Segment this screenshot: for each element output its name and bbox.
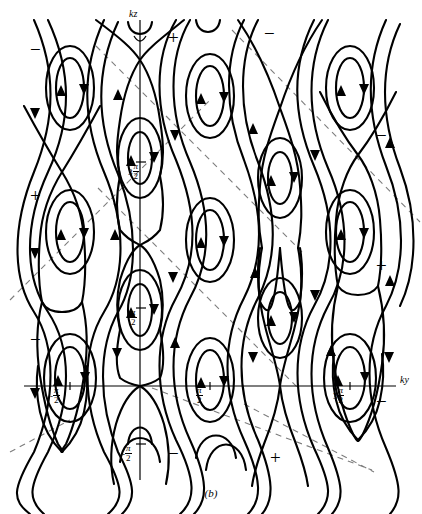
open-streamline bbox=[88, 20, 121, 514]
flow-arrow bbox=[168, 272, 178, 283]
tick-fraction: π 2 bbox=[338, 386, 345, 406]
open-streamline bbox=[160, 20, 193, 514]
flow-arrow bbox=[248, 352, 258, 363]
tick-fraction: π 2 bbox=[53, 386, 60, 406]
y-tick-label-3pi-2: 3 π 2 bbox=[128, 162, 139, 182]
flow-arrow bbox=[112, 348, 122, 359]
fraction-denominator: 2 bbox=[125, 454, 132, 463]
fraction-denominator: 2 bbox=[53, 396, 60, 405]
sign-annotation: − bbox=[376, 392, 387, 411]
flow-arrow bbox=[79, 228, 89, 239]
fraction-denominator: 2 bbox=[196, 396, 203, 405]
separatrix-branch bbox=[39, 106, 100, 302]
kz-axis-label: kz bbox=[129, 8, 137, 19]
flow-arrow bbox=[196, 237, 206, 248]
x-tick-label-3pi-2: 3 π 2 bbox=[333, 386, 344, 406]
flow-arrow bbox=[56, 85, 66, 96]
flow-arrow bbox=[385, 275, 395, 286]
tick-fraction: π 2 bbox=[125, 444, 132, 464]
flow-arrow bbox=[170, 337, 180, 348]
tick-fraction: π 2 bbox=[130, 308, 137, 328]
flow-arrow bbox=[359, 84, 369, 95]
flow-arrow bbox=[149, 304, 159, 315]
sign-annotation: − bbox=[264, 24, 275, 43]
ky-axis-label: ky bbox=[400, 374, 409, 385]
sign-annotation: − bbox=[30, 330, 41, 349]
fraction-denominator: 2 bbox=[338, 396, 345, 405]
flow-arrow bbox=[30, 108, 40, 119]
sign-annotation: + bbox=[168, 28, 179, 47]
flow-arrow bbox=[170, 130, 180, 141]
streamlines bbox=[17, 20, 414, 514]
flow-arrow bbox=[359, 228, 369, 239]
flow-arrow bbox=[326, 345, 336, 356]
flow-arrow bbox=[219, 92, 229, 103]
x-tick-label-neg-pi-2: - π 2 bbox=[50, 386, 60, 406]
flow-arrow bbox=[113, 89, 123, 100]
flow-arrow bbox=[196, 93, 206, 104]
y-tick-label-neg-pi-2: - π 2 bbox=[122, 444, 132, 464]
sign-annotation: − bbox=[376, 126, 387, 145]
sign-annotation: + bbox=[376, 256, 387, 275]
fraction-denominator: 2 bbox=[133, 172, 140, 181]
plot-area bbox=[10, 20, 420, 514]
flow-arrow bbox=[289, 172, 299, 183]
streamline-arc bbox=[206, 445, 246, 471]
y-tick-label-pi-2: π 2 bbox=[130, 308, 137, 328]
separatrix-lines bbox=[10, 30, 420, 472]
flow-arrow bbox=[149, 152, 159, 163]
flow-arrow bbox=[248, 123, 258, 134]
flow-arrow bbox=[360, 372, 370, 383]
sign-annotation: + bbox=[270, 448, 281, 467]
separatrix-branch bbox=[338, 286, 378, 295]
streamline-arc bbox=[196, 436, 236, 459]
flow-arrow bbox=[336, 85, 346, 96]
figure-caption: (b) bbox=[0, 487, 422, 499]
flow-arrow bbox=[56, 229, 66, 240]
x-tick-label-pi-2: π 2 bbox=[196, 386, 203, 406]
tick-marks bbox=[70, 162, 350, 444]
streamline-arc bbox=[196, 20, 220, 32]
sign-annotation: + bbox=[30, 186, 41, 205]
tick-fraction: π 2 bbox=[133, 162, 140, 182]
tick-fraction: π 2 bbox=[196, 386, 203, 406]
flow-arrow bbox=[219, 236, 229, 247]
sign-annotation: − bbox=[30, 40, 41, 59]
fraction-denominator: 2 bbox=[130, 318, 137, 327]
open-streamline bbox=[174, 20, 207, 514]
flow-arrow bbox=[110, 229, 120, 240]
sign-annotation: − bbox=[168, 444, 179, 463]
flow-arrow bbox=[384, 352, 394, 363]
phase-portrait-figure bbox=[0, 0, 422, 514]
